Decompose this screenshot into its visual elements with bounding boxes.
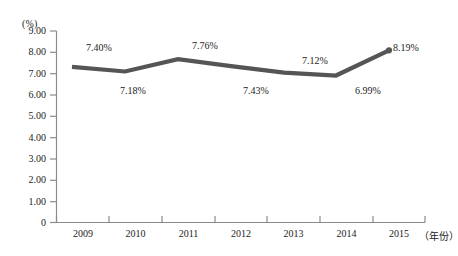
y-tick-label-5: 5.00 [8, 110, 46, 121]
x-axis-title: （年份） [419, 228, 458, 243]
x-tick-label-2011: 2011 [162, 228, 215, 239]
y-tick-label-9: 9.00 [8, 25, 46, 36]
y-tick-label-3: 3.00 [8, 153, 46, 164]
data-label-2011: 7.76% [182, 40, 228, 51]
x-tick-label-2010: 2010 [109, 228, 162, 239]
x-axis-ticks [57, 216, 426, 223]
x-tick-label-2014: 2014 [320, 228, 373, 239]
data-label-2013: 7.12% [292, 55, 338, 66]
x-tick-label-2012: 2012 [215, 228, 267, 239]
line-chart: (%) 9.00 8.00 7.00 6.00 5.00 4.00 3.00 2… [0, 0, 458, 256]
y-tick-label-1: 1.00 [8, 196, 46, 207]
y-tick-label-6: 6.00 [8, 89, 46, 100]
y-tick-label-0: 0 [8, 217, 46, 228]
chart-canvas [0, 0, 458, 256]
data-line-series [72, 50, 389, 75]
data-label-2012: 7.43% [233, 85, 279, 96]
y-tick-label-8: 8.00 [8, 46, 46, 57]
data-label-2010: 7.18% [110, 85, 156, 96]
data-label-2014: 6.99% [345, 85, 391, 96]
y-tick-label-2: 2.00 [8, 174, 46, 185]
x-tick-label-2015: 2015 [373, 228, 425, 239]
data-label-2009: 7.40% [76, 42, 122, 53]
x-tick-label-2009: 2009 [57, 228, 109, 239]
y-tick-label-4: 4.00 [8, 132, 46, 143]
y-tick-label-7: 7.00 [8, 68, 46, 79]
endpoint-marker [386, 47, 392, 53]
x-tick-label-2013: 2013 [267, 228, 320, 239]
data-label-2015: 8.19% [393, 42, 439, 53]
y-axis-ticks [50, 31, 57, 223]
